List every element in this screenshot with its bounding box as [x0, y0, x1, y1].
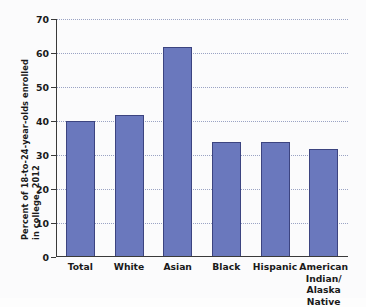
- x-axis-category-label-line: American: [299, 261, 348, 273]
- y-tick-label: 0: [42, 252, 49, 263]
- x-axis-line: [56, 256, 348, 257]
- bar: [261, 142, 290, 257]
- x-axis-category-label-line: Hispanic: [251, 261, 300, 273]
- x-axis-category-label-line: Asian: [153, 261, 202, 273]
- y-axis-title-line-1: Percent of 18-to-24-year-olds enrolled: [20, 59, 32, 240]
- y-tick-label: 20: [36, 184, 49, 195]
- y-tick-label: 70: [36, 14, 49, 25]
- bars-group: [56, 19, 348, 257]
- x-axis-category-label: AmericanIndian/Alaska Native: [299, 261, 348, 307]
- bar: [163, 47, 192, 257]
- x-axis-category-label-line: Indian/: [299, 273, 348, 285]
- x-axis-category-label-line: Black: [202, 261, 251, 273]
- plot-area: 010203040506070: [56, 19, 348, 257]
- y-tick-label: 60: [36, 48, 49, 59]
- bar: [309, 149, 338, 257]
- x-axis-category-label-line: Total: [56, 261, 105, 273]
- x-axis-category-labels: TotalWhiteAsianBlackHispanicAmericanIndi…: [56, 261, 348, 297]
- bar: [115, 115, 144, 257]
- y-axis-title-line-2: in college, 2012: [31, 165, 43, 240]
- x-axis-category-label: Asian: [153, 261, 202, 273]
- x-axis-category-label-line: White: [105, 261, 154, 273]
- y-tick-label: 40: [36, 116, 49, 127]
- bar: [212, 142, 241, 257]
- y-axis-line: [56, 19, 57, 257]
- bar: [66, 121, 95, 257]
- x-axis-category-label: White: [105, 261, 154, 273]
- x-axis-category-label-line: Alaska Native: [299, 284, 348, 307]
- y-tick-label: 30: [36, 150, 49, 161]
- y-tick-label: 50: [36, 82, 49, 93]
- x-axis-category-label: Hispanic: [251, 261, 300, 273]
- y-tick-label: 10: [36, 218, 49, 229]
- y-tick-mark: [51, 257, 56, 258]
- x-axis-category-label: Black: [202, 261, 251, 273]
- x-axis-category-label: Total: [56, 261, 105, 273]
